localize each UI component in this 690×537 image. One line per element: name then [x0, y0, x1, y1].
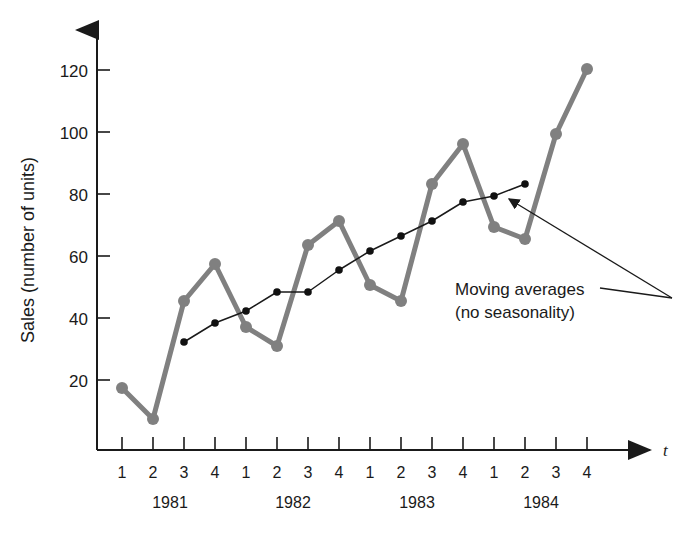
x-tick-label-q1-1984: 1	[490, 464, 499, 481]
data-point	[519, 233, 531, 245]
data-point	[581, 63, 593, 75]
chart-canvas: 120 100 80 60 40 20 Sales (number of uni…	[0, 0, 690, 537]
annotation-line-2: (no seasonality)	[455, 303, 575, 322]
data-point	[428, 217, 436, 225]
x-tick-label-q1-1983: 1	[366, 464, 375, 481]
x-tick-label-q4-1982: 4	[335, 464, 344, 481]
y-tick-label-100: 100	[60, 124, 88, 143]
data-point	[178, 295, 190, 307]
data-point	[335, 266, 343, 274]
annotation-line-1: Moving averages	[455, 280, 584, 299]
x-tick-label-q3-1982: 3	[304, 464, 313, 481]
y-tick-label-60: 60	[69, 248, 88, 267]
data-point	[180, 338, 188, 346]
data-point	[488, 221, 500, 233]
x-tick-label-q3-1981: 3	[180, 464, 189, 481]
y-tick-label-80: 80	[69, 186, 88, 205]
data-point	[209, 258, 221, 270]
x-tick-label-q1-1981: 1	[118, 464, 127, 481]
data-point	[397, 232, 405, 240]
y-axis-title: Sales (number of units)	[18, 157, 38, 343]
x-tick-label-q3-1983: 3	[428, 464, 437, 481]
data-point	[242, 307, 250, 315]
y-tick-label-40: 40	[69, 310, 88, 329]
data-point	[211, 319, 219, 327]
x-tick-label-q2-1984: 2	[521, 464, 530, 481]
y-axis: 120 100 80 60 40 20 Sales (number of uni…	[18, 30, 110, 450]
data-point	[273, 288, 281, 296]
data-point	[333, 215, 345, 227]
x-tick-label-q4-1981: 4	[211, 464, 220, 481]
x-group-label-1982: 1982	[275, 494, 311, 511]
x-axis: 1 2 3 4 1 2 3 4 1 2 3 4 1 2 3 4 1981 198…	[97, 437, 669, 511]
x-tick-label-q1-1982: 1	[242, 464, 251, 481]
data-point	[426, 178, 438, 190]
data-point	[240, 321, 252, 333]
data-point	[395, 295, 407, 307]
data-point	[457, 138, 469, 150]
sales-time-series-chart: 120 100 80 60 40 20 Sales (number of uni…	[0, 0, 690, 537]
data-point	[302, 239, 314, 251]
data-point	[490, 192, 498, 200]
data-point	[304, 288, 312, 296]
x-tick-label-q4-1984: 4	[583, 464, 592, 481]
x-tick-label-q2-1983: 2	[397, 464, 406, 481]
x-group-label-1984: 1984	[523, 494, 559, 511]
data-point	[364, 279, 376, 291]
x-tick-label-q2-1982: 2	[273, 464, 282, 481]
series-sales	[116, 63, 593, 425]
y-tick-label-120: 120	[60, 62, 88, 81]
moving-averages-annotation: Moving averages (no seasonality)	[455, 199, 672, 322]
data-point	[366, 247, 374, 255]
data-point	[116, 382, 128, 394]
x-tick-label-q3-1984: 3	[552, 464, 561, 481]
data-point	[271, 340, 283, 352]
data-point	[459, 198, 467, 206]
x-tick-label-q2-1981: 2	[149, 464, 158, 481]
x-tick-label-q4-1983: 4	[459, 464, 468, 481]
data-point	[550, 128, 562, 140]
data-point	[521, 180, 529, 188]
x-group-label-1981: 1981	[152, 494, 188, 511]
y-tick-label-20: 20	[69, 372, 88, 391]
series-sales-line	[122, 69, 587, 419]
data-point	[147, 413, 159, 425]
x-axis-title: t	[663, 441, 669, 460]
x-group-label-1983: 1983	[399, 494, 435, 511]
